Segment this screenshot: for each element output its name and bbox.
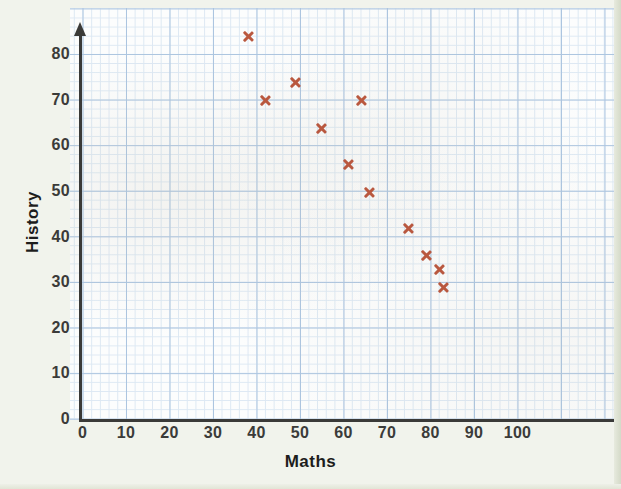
data-point-marker: [241, 30, 254, 43]
y-axis-line: [79, 33, 82, 422]
scan-edge-right: [614, 0, 621, 489]
data-point-marker: [402, 222, 415, 235]
x-tick-label-70: 70: [367, 424, 407, 442]
scan-edge-bottom: [0, 484, 621, 489]
x-axis-title: Maths: [0, 452, 621, 472]
data-point-marker: [433, 263, 446, 276]
graph-paper-grid: [70, 8, 615, 420]
y-tick-label-0: 0: [28, 410, 70, 428]
x-tick-label-60: 60: [324, 424, 364, 442]
y-tick-label-60: 60: [28, 136, 70, 154]
scatter-plot-page: 0102030405060708090100 01020304050607080…: [0, 0, 621, 489]
x-tick-label-50: 50: [280, 424, 320, 442]
data-point-marker: [363, 186, 376, 199]
y-tick-label-70: 70: [28, 91, 70, 109]
x-tick-label-80: 80: [411, 424, 451, 442]
y-tick-label-20: 20: [28, 319, 70, 337]
x-tick-label-30: 30: [193, 424, 233, 442]
data-point-marker: [289, 76, 302, 89]
data-point-marker: [354, 94, 367, 107]
y-axis-title: History: [23, 162, 43, 282]
data-point-marker: [259, 94, 272, 107]
x-tick-label-40: 40: [237, 424, 277, 442]
x-axis-line: [79, 419, 617, 422]
y-tick-label-80: 80: [28, 45, 70, 63]
x-tick-label-10: 10: [106, 424, 146, 442]
x-tick-label-100: 100: [498, 424, 538, 442]
y-tick-label-10: 10: [28, 364, 70, 382]
data-point-marker: [420, 249, 433, 262]
data-point-marker: [437, 281, 450, 294]
x-tick-label-90: 90: [454, 424, 494, 442]
data-point-marker: [315, 122, 328, 135]
x-tick-label-20: 20: [150, 424, 190, 442]
data-point-marker: [341, 158, 354, 171]
